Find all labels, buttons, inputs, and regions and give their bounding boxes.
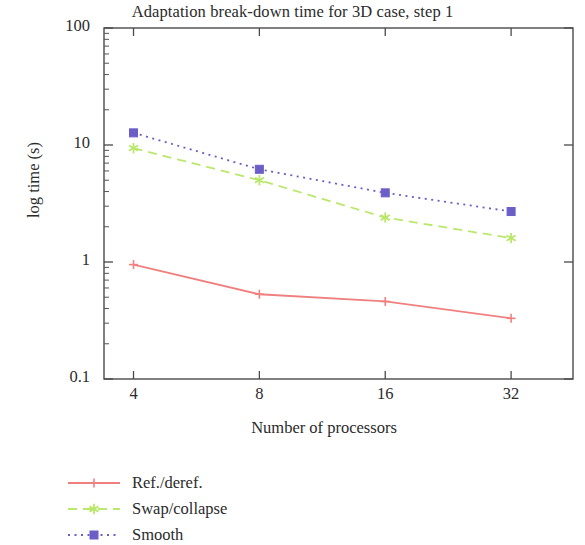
plot-area bbox=[0, 0, 585, 545]
legend-label: Smooth bbox=[122, 525, 183, 545]
chart-figure: Adaptation break-down time for 3D case, … bbox=[0, 0, 585, 545]
data-point-marker bbox=[255, 165, 263, 173]
series-line bbox=[134, 265, 512, 319]
legend-line-sample bbox=[66, 525, 122, 545]
legend-item-2: Swap/collapse bbox=[66, 496, 366, 522]
legend-line-sample bbox=[66, 473, 122, 493]
data-point-marker bbox=[130, 129, 138, 137]
legend-item-1: Ref./deref. bbox=[66, 470, 366, 496]
legend-item-3: Smooth bbox=[66, 522, 366, 545]
series-2 bbox=[129, 143, 516, 243]
series-1 bbox=[129, 260, 516, 323]
legend-label: Swap/collapse bbox=[122, 499, 227, 519]
chart-legend: Ref./deref.Swap/collapseSmooth bbox=[66, 470, 366, 545]
data-point-marker bbox=[507, 208, 515, 216]
series-3 bbox=[130, 129, 516, 216]
legend-label: Ref./deref. bbox=[122, 473, 203, 493]
series-line bbox=[134, 148, 512, 238]
data-point-marker bbox=[381, 189, 389, 197]
data-point-marker bbox=[90, 531, 98, 539]
legend-line-sample bbox=[66, 499, 122, 519]
